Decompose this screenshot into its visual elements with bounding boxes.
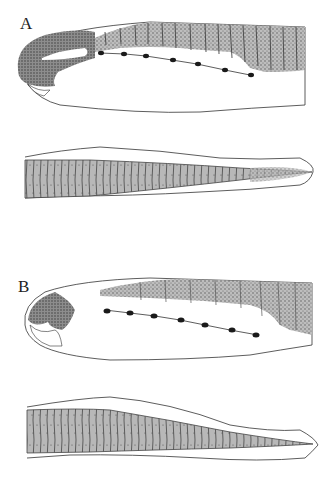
specimen-a-lateral <box>18 22 305 112</box>
specimen-a-tail <box>25 147 313 198</box>
specimen-b-tail <box>27 397 318 460</box>
specimen-b-lateral <box>25 278 312 360</box>
figure-illustration <box>0 0 335 483</box>
myomere-band-b <box>27 409 313 453</box>
